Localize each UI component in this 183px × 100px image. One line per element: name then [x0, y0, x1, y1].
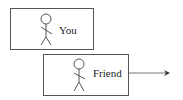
arrow-right-icon: [129, 70, 170, 76]
stick-figure-icon: [74, 59, 85, 91]
diagram-graphics: [0, 0, 183, 100]
stick-figure-icon: [41, 14, 52, 45]
node-friend-label: Friend: [93, 67, 122, 79]
node-you-label: You: [59, 24, 77, 36]
